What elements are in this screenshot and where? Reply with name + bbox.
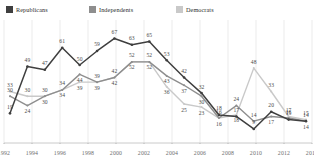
- x-axis-labels: 1992199419961998200020022004200620082010…: [0, 150, 314, 164]
- data-point: [79, 73, 81, 75]
- data-point: [183, 103, 185, 105]
- chart-legend: Republicans Independents Democrats: [6, 3, 308, 17]
- data-point: [166, 75, 168, 77]
- data-point: [96, 50, 99, 53]
- data-point: [26, 105, 28, 107]
- x-axis-tick-label: 2004: [166, 150, 178, 156]
- series-line-republicans: [10, 38, 306, 128]
- data-label: 52: [146, 64, 152, 70]
- data-point: [200, 92, 203, 95]
- data-label: 65: [146, 32, 152, 38]
- data-point: [61, 89, 63, 91]
- legend-label: Independents: [99, 6, 133, 13]
- data-label: 43: [164, 78, 170, 84]
- data-label: 67: [112, 29, 118, 35]
- chart-series-group: [9, 37, 308, 130]
- data-label: 50: [77, 56, 83, 62]
- data-point: [148, 40, 151, 43]
- legend-item-republicans[interactable]: Republicans: [6, 3, 48, 15]
- data-label: 14: [303, 124, 309, 130]
- data-point: [183, 84, 185, 86]
- data-label: 20: [268, 102, 274, 108]
- x-axis-tick-label: 1998: [82, 150, 94, 156]
- data-label: 30: [42, 87, 48, 93]
- data-label: 16: [216, 121, 222, 127]
- data-label: 24: [25, 108, 31, 114]
- data-label: 24: [233, 96, 239, 102]
- data-point: [270, 91, 272, 93]
- legend-item-independents[interactable]: Independents: [89, 3, 133, 15]
- data-point: [131, 61, 133, 63]
- data-label: 17: [268, 119, 274, 125]
- data-label: 48: [251, 59, 257, 65]
- x-axis-tick-label: 2008: [222, 150, 234, 156]
- data-label: 30: [199, 99, 205, 105]
- data-label: 30: [42, 99, 48, 105]
- data-point: [61, 47, 64, 50]
- data-point: [113, 37, 116, 40]
- data-label: 42: [112, 68, 118, 74]
- legend-label: Democrats: [186, 6, 214, 13]
- data-point: [305, 120, 308, 123]
- data-point: [26, 65, 29, 68]
- x-axis-tick-label: 2014: [306, 150, 314, 156]
- data-point: [270, 115, 272, 117]
- data-label: 44: [77, 77, 83, 83]
- legend-swatch-icon: [176, 6, 183, 13]
- data-point: [252, 128, 255, 131]
- data-label: 30: [25, 87, 31, 93]
- data-label: 16: [216, 109, 222, 115]
- data-point: [96, 81, 98, 83]
- legend-item-democrats[interactable]: Democrats: [176, 3, 214, 15]
- data-point: [183, 76, 186, 79]
- data-point: [287, 118, 290, 121]
- data-point: [44, 68, 47, 71]
- x-axis-tick-label: 2010: [250, 150, 262, 156]
- data-point: [113, 76, 115, 78]
- data-label: 37: [181, 88, 187, 94]
- data-label: 52: [146, 52, 152, 58]
- data-point: [253, 67, 255, 69]
- x-axis-tick-label: 2000: [110, 150, 122, 156]
- data-point: [201, 95, 203, 97]
- data-label: 33: [7, 82, 13, 88]
- data-label: 53: [164, 51, 170, 57]
- data-label: 42: [112, 80, 118, 86]
- data-point: [218, 117, 220, 119]
- legend-swatch-icon: [6, 6, 13, 13]
- data-label: 49: [25, 57, 31, 63]
- data-label: 39: [94, 73, 100, 79]
- data-point: [166, 86, 168, 88]
- data-label: 39: [77, 85, 83, 91]
- data-label: 18: [233, 117, 239, 123]
- data-label: 17: [286, 107, 292, 113]
- data-label: 17: [233, 107, 239, 113]
- data-label: 19: [7, 104, 13, 110]
- data-point: [26, 95, 28, 97]
- data-label: 63: [129, 35, 135, 41]
- data-point: [9, 95, 11, 97]
- data-point: [148, 61, 150, 63]
- data-label: 42: [181, 68, 187, 74]
- series-line-independents: [10, 62, 306, 121]
- legend-label: Republicans: [16, 6, 48, 13]
- data-label: 32: [199, 84, 205, 90]
- legend-swatch-icon: [89, 6, 96, 13]
- data-point: [9, 112, 12, 115]
- data-label: 61: [59, 38, 65, 44]
- data-label: 25: [181, 107, 187, 113]
- data-point: [201, 106, 203, 108]
- data-point: [165, 59, 168, 62]
- data-label: 14: [251, 112, 257, 118]
- x-axis-tick-label: 2006: [194, 150, 206, 156]
- x-axis-tick-label: 1996: [54, 150, 66, 156]
- x-axis-tick-label: 1994: [26, 150, 38, 156]
- data-point: [270, 111, 273, 114]
- data-label: 47: [42, 60, 48, 66]
- data-label: 33: [268, 82, 274, 88]
- x-axis-tick-label: 1992: [0, 150, 10, 156]
- data-label: 15: [303, 110, 309, 116]
- data-label: 52: [129, 64, 135, 70]
- x-axis-tick-label: 2012: [278, 150, 290, 156]
- chart-data-labels: 1949476150596763655342321817920151430243…: [7, 29, 309, 130]
